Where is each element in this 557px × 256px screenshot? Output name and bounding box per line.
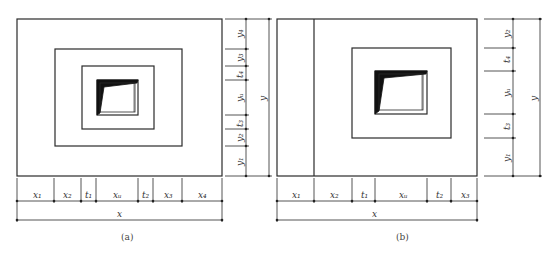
label-x4: x₄ (198, 190, 207, 200)
label-y4: y₄ (235, 29, 245, 39)
label-x2: x₂ (330, 190, 339, 200)
label-xu: xᵤ (399, 190, 408, 200)
label-t2: t₂ (436, 190, 444, 200)
label-t2: t₂ (142, 190, 150, 200)
label-t1: t₁ (85, 190, 92, 200)
label-t3: t₃ (235, 119, 245, 127)
inner-rect-a (82, 66, 154, 129)
label-y3: y₃ (235, 53, 245, 63)
label-x3: x₃ (461, 190, 470, 200)
label-yu: yᵤ (502, 88, 512, 98)
label-xu: xᵤ (113, 190, 122, 200)
outer-rect-a (17, 19, 222, 176)
figure-b (277, 19, 542, 222)
label-t4: t₄ (502, 55, 512, 63)
opening-b (375, 71, 427, 114)
label-x2: x₂ (63, 190, 72, 200)
label-yu: yᵤ (235, 93, 245, 103)
label-y1: y₁ (235, 157, 245, 167)
label-x: x (117, 209, 122, 219)
label-y2: y₂ (502, 29, 512, 39)
label-t3: t₃ (502, 122, 512, 130)
labels-b: x₁ x₂ t₁ xᵤ t₂ x₃ x y₂ t₄ yᵤ t₃ y₁ y (b) (292, 29, 539, 242)
caption-a: (a) (121, 232, 133, 242)
label-x1: x₁ (292, 190, 301, 200)
label-t4: t₄ (235, 70, 245, 78)
label-y1: y₁ (502, 153, 512, 163)
middle-rect-b (352, 48, 451, 138)
label-t1: t₁ (361, 190, 368, 200)
label-y2: y₂ (235, 133, 245, 143)
labels-a: x₁ x₂ t₁ xᵤ t₂ x₃ x₄ x y₄ y₃ t₄ yᵤ t₃ y₂… (33, 29, 268, 242)
label-x3: x₃ (164, 190, 173, 200)
caption-b: (b) (396, 232, 409, 242)
label-y: y (258, 95, 268, 102)
opening-a (97, 80, 138, 115)
diagram-canvas: x₁ x₂ t₁ xᵤ t₂ x₃ x₄ x y₄ y₃ t₄ yᵤ t₃ y₂… (0, 0, 557, 256)
label-x1: x₁ (33, 190, 42, 200)
label-y: y (529, 95, 539, 102)
label-x: x (372, 209, 377, 219)
middle-rect-a (55, 49, 182, 146)
